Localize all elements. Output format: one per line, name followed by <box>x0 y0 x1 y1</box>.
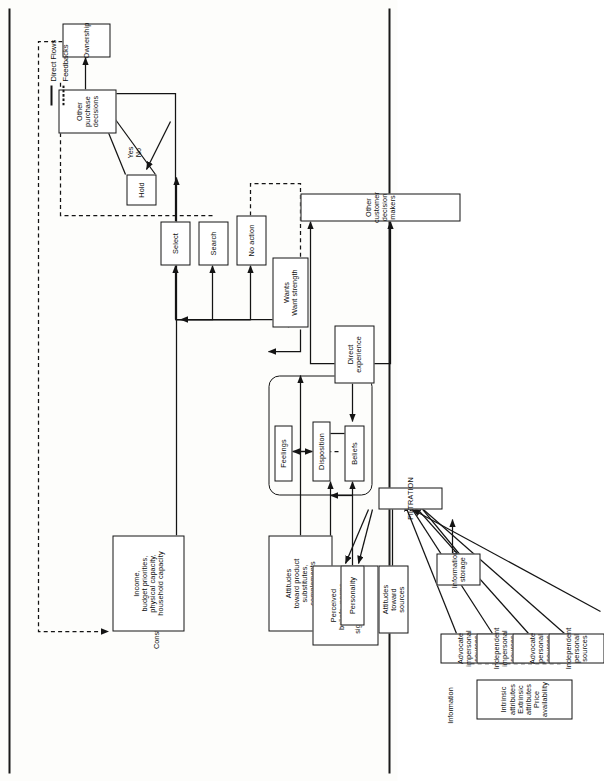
node-no-action[interactable]: No action <box>236 215 266 265</box>
frame-rule-bottom <box>388 8 390 773</box>
node-attitudes-toward-sources[interactable]: Attitudes toward sources <box>378 565 408 633</box>
node-direct-experience[interactable]: Direct experience <box>334 325 374 383</box>
node-filtration[interactable]: FILTRATION <box>378 487 442 509</box>
node-search[interactable]: Search <box>198 221 228 265</box>
node-hold[interactable]: Hold <box>126 174 156 205</box>
node-information-storage[interactable]: Information storage <box>436 553 480 585</box>
label-yes-no: Yes No <box>126 139 143 165</box>
node-disposition[interactable]: Disposition <box>312 421 330 481</box>
legend-direct-flows-rule <box>50 85 52 105</box>
node-beliefs[interactable]: Beliefs <box>344 425 364 481</box>
frame-rule-top <box>8 8 10 773</box>
node-select[interactable]: Select <box>160 221 190 265</box>
node-constraints[interactable]: Income, budget priorities, physical capa… <box>112 535 184 631</box>
node-information-attributes[interactable]: Intrinsic attributes Extrinsic attribute… <box>476 679 572 719</box>
node-other-purchase-decisions[interactable]: Other purchase decisions <box>58 89 116 133</box>
legend-feedbacks-label: Feedbacks <box>60 44 70 81</box>
node-other-customer-decision-makers[interactable]: Other customer decision makers <box>300 193 460 221</box>
legend-feedbacks-rule <box>62 85 64 105</box>
node-personality[interactable]: Personality <box>340 565 364 625</box>
node-feelings[interactable]: Feelings <box>274 425 292 481</box>
legend-direct-flows-label: Direct Flows <box>48 39 58 81</box>
label-information: Information <box>446 681 454 729</box>
node-independent-personal-sources[interactable]: Independent personal sources <box>548 633 604 663</box>
node-wants[interactable]: Wants Want strength <box>272 257 308 327</box>
